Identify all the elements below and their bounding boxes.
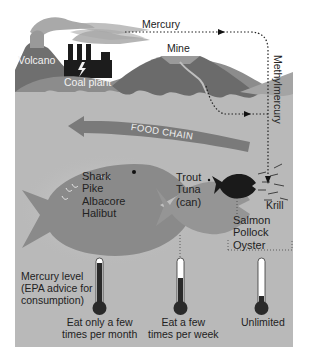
species-salmon: Salmon [233, 214, 270, 226]
advice-large-line-1: Eat only a few [62, 317, 137, 329]
mercury-level-legend: Mercury level (EPA advice for consumptio… [21, 271, 93, 306]
medium-fish-species: Trout Tuna (can) [176, 171, 201, 208]
species-pike: Pike [82, 182, 125, 194]
large-fish-eye [132, 170, 136, 174]
species-shark: Shark [82, 170, 125, 182]
advice-small: Unlimited [241, 317, 285, 329]
advice-medium-line-2: times per week [148, 329, 219, 341]
mercury-level-line-3: consumption) [21, 295, 93, 307]
mercury-level-line-1: Mercury level [21, 271, 93, 283]
advice-medium-line-1: Eat a few [148, 317, 219, 329]
species-albacore: Albacore [82, 195, 125, 207]
species-halibut: Halibut [82, 207, 125, 219]
advice-medium: Eat a few times per week [148, 317, 219, 341]
species-pollock: Pollock [233, 226, 270, 238]
small-fish-species: Salmon Pollock Oyster [233, 214, 270, 251]
coal-plant-label: Coal plant [64, 77, 111, 89]
large-fish-species: Shark Pike Albacore Halibut [82, 170, 125, 219]
coal-plant [64, 44, 112, 78]
species-tuna: Tuna [176, 183, 201, 195]
species-oyster: Oyster [233, 239, 270, 251]
advice-large: Eat only a few times per month [62, 317, 137, 341]
krill-label: Krill [266, 200, 284, 212]
mercury-arrowhead [218, 29, 225, 35]
species-trout: Trout [176, 171, 201, 183]
volcano-label: Volcano [18, 55, 55, 67]
advice-small-line-1: Unlimited [241, 317, 285, 329]
mercury-food-chain-diagram: Volcano Coal plant Mercury Mine Methylme… [0, 0, 309, 355]
advice-large-line-2: times per month [62, 329, 137, 341]
mine-label: Mine [167, 43, 190, 55]
methylmercury-label: Methylmercury [272, 55, 284, 124]
mercury-level-line-2: (EPA advice for [21, 283, 93, 295]
mercury-label: Mercury [142, 19, 180, 31]
species-tuna-can: (can) [176, 196, 201, 208]
